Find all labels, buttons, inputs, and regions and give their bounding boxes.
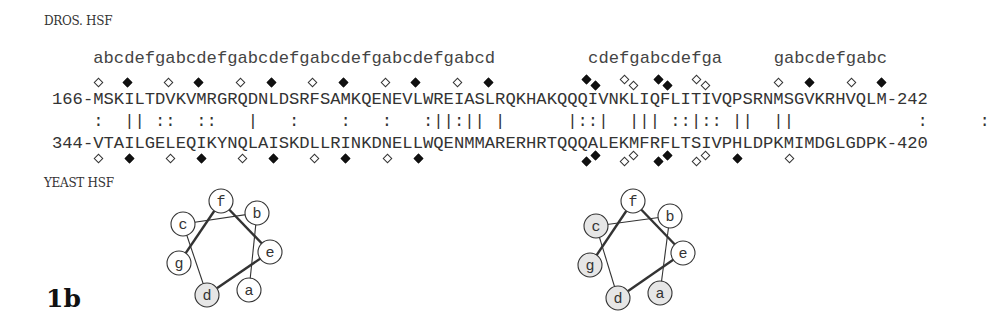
wheel-position-label: b (252, 206, 261, 223)
wheel-left: fbcegda (167, 189, 282, 307)
wheel-position-label: b (665, 209, 674, 226)
wheel-position-label: f (628, 194, 637, 211)
wheel-position-label: a (655, 286, 664, 303)
wheel-position-label: c (178, 217, 187, 234)
wheel-position-label: d (202, 288, 211, 305)
figure-label: 1b (46, 284, 81, 313)
wheel-position-label: a (244, 283, 253, 300)
wheel-position-label: g (174, 256, 183, 273)
wheel-position-label: d (613, 291, 622, 308)
wheel-position-label: e (265, 245, 274, 262)
wheel-position-label: g (585, 258, 594, 275)
wheel-position-label: c (591, 219, 600, 236)
wheel-right: fbcegda (578, 189, 695, 310)
wheel-position-label: e (678, 246, 687, 263)
wheel-position-label: f (216, 194, 225, 211)
